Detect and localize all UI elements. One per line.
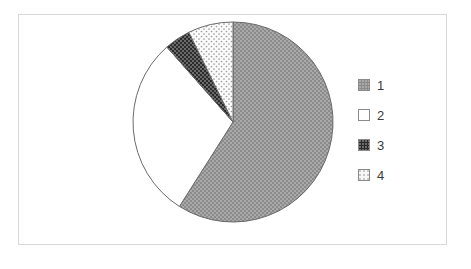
legend-item-4[interactable]: 4 (358, 160, 418, 190)
legend-label-1: 1 (377, 79, 384, 92)
pie-slices-group (133, 22, 333, 222)
pie-chart-figure: 1 2 3 4 (0, 0, 471, 269)
chart-legend: 1 2 3 4 (358, 70, 418, 190)
legend-label-4: 4 (377, 169, 384, 182)
legend-swatch-icon-3 (358, 139, 370, 151)
legend-label-2: 2 (377, 109, 384, 122)
legend-item-2[interactable]: 2 (358, 100, 418, 130)
legend-label-3: 3 (377, 139, 384, 152)
legend-swatch-icon-1 (358, 79, 370, 91)
legend-swatch-icon-4 (358, 169, 370, 181)
legend-item-3[interactable]: 3 (358, 130, 418, 160)
legend-item-1[interactable]: 1 (358, 70, 418, 100)
legend-swatch-icon-2 (358, 109, 370, 121)
